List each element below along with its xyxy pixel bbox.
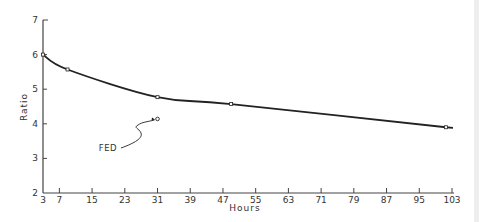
annotations: FED	[99, 117, 159, 153]
data-series	[42, 53, 454, 129]
x-tick-label: 15	[86, 195, 97, 205]
x-tick-label: 7	[56, 195, 62, 205]
fed-arrow-icon	[121, 120, 155, 148]
x-tick-label: 47	[217, 195, 228, 205]
x-axis-label: Hours	[229, 203, 260, 213]
y-tick-label: 5	[32, 84, 38, 94]
x-tick-label: 71	[315, 195, 326, 205]
ratio-line	[43, 55, 453, 128]
fed-marker	[156, 117, 160, 121]
x-tick-label: 103	[443, 195, 460, 205]
x-tick-label: 79	[348, 195, 360, 205]
edge-stripe	[474, 0, 479, 222]
axis-ticks: 371523313947556371798795103234567	[32, 15, 460, 205]
fed-label: FED	[99, 143, 117, 153]
x-tick-label: 31	[152, 195, 163, 205]
x-tick-label: 23	[119, 195, 130, 205]
x-tick-label: 63	[283, 195, 294, 205]
x-tick-label: 95	[414, 195, 425, 205]
data-point-marker	[230, 103, 233, 106]
data-point-marker	[156, 96, 159, 99]
y-tick-label: 3	[32, 153, 38, 163]
y-tick-label: 4	[32, 119, 38, 129]
y-tick-label: 6	[32, 50, 38, 60]
data-point-marker	[42, 53, 45, 56]
y-tick-label: 2	[32, 188, 38, 198]
x-tick-label: 39	[185, 195, 197, 205]
line-chart: 371523313947556371798795103234567 FED Ho…	[0, 0, 479, 222]
y-tick-label: 7	[32, 15, 38, 25]
x-tick-label: 87	[381, 195, 392, 205]
y-axis-label: Ratio	[19, 93, 29, 121]
data-point-marker	[66, 68, 69, 71]
data-point-marker	[444, 126, 447, 129]
x-tick-label: 3	[40, 195, 46, 205]
